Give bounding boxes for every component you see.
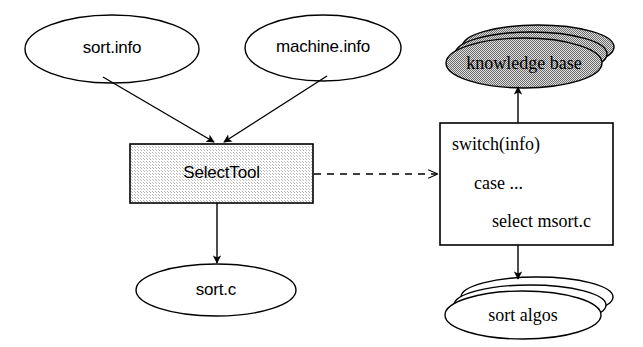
node-knowledge-base-shape-front <box>446 38 602 88</box>
diagram-graphics <box>0 0 643 347</box>
node-switch-box-shape <box>440 123 613 245</box>
node-machine-info-shape <box>245 15 401 81</box>
edge-sort-info-to-select-tool <box>103 77 214 142</box>
diagram-canvas: sort.info machine.info SelectTool sort.c… <box>0 0 643 347</box>
node-sort-algos-shape-front <box>445 291 601 339</box>
node-select-tool-shape <box>130 144 313 203</box>
edge-machine-info-to-select-tool <box>224 76 327 142</box>
node-sort-c-shape <box>136 264 296 316</box>
node-sort-info-shape <box>25 15 199 83</box>
